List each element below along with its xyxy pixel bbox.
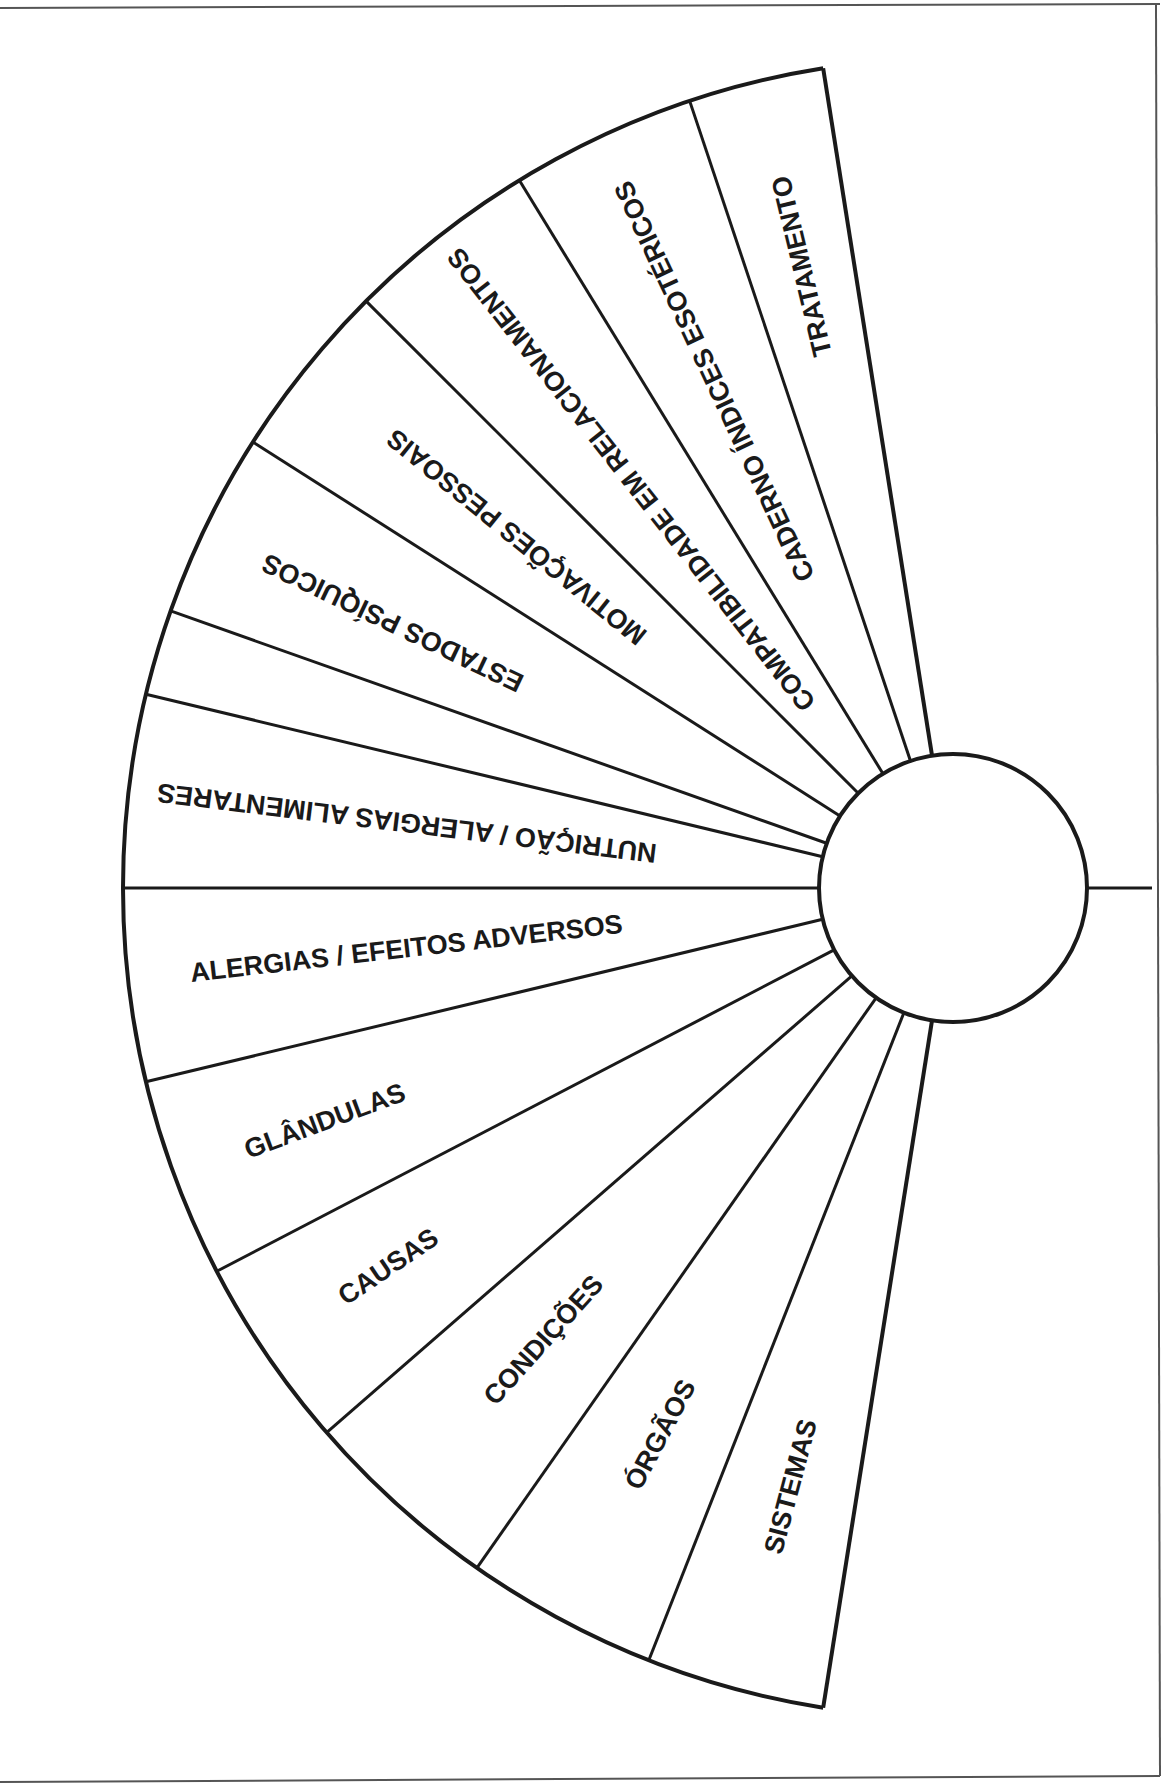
- page-border-right: [1156, 4, 1160, 1776]
- segment-divider-line: [823, 1020, 932, 1707]
- page-border-top: [0, 4, 1160, 8]
- page-border-bottom: [0, 1776, 1160, 1782]
- page-frame: TRATAMENTOCADERNO ÍNDICES ESOTÉRICOSCOMP…: [0, 0, 1163, 1791]
- hub-circle[interactable]: [819, 754, 1087, 1022]
- segment-divider-line: [823, 68, 932, 755]
- radial-fan-chart: TRATAMENTOCADERNO ÍNDICES ESOTÉRICOSCOMP…: [0, 0, 1163, 1791]
